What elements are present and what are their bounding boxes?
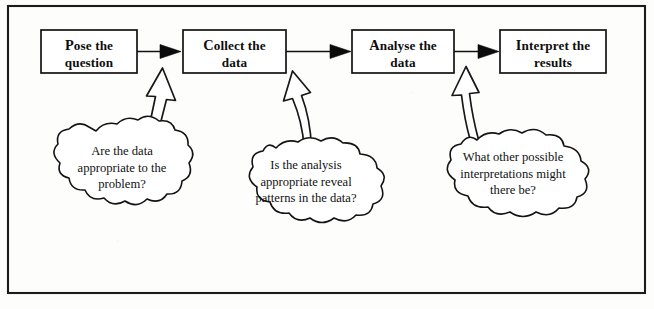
cloud3-line1: What other possible — [463, 150, 564, 164]
cloud1-line2: appropriate to the — [78, 161, 167, 175]
flow-connector-pose-to-collect — [137, 45, 181, 59]
block-arrow-cloud3-to-analyse — [452, 67, 479, 142]
process-box-pose[interactable]: Pose the question — [41, 30, 137, 73]
cloud1-line1: Are the data — [91, 144, 153, 158]
box-initial-pose: P — [65, 37, 74, 53]
cloud2-line3: patterns in the data? — [255, 191, 356, 205]
box-initial-collect: C — [203, 37, 214, 53]
cloud3-line3: there be? — [490, 183, 536, 197]
box-line1-collect: ollect the — [214, 38, 266, 53]
flow-connector-analyse-to-interpret — [454, 45, 499, 59]
box-line1-analyse: nalyse the — [380, 38, 437, 53]
box-line2-collect: data — [222, 55, 248, 70]
box-line2-analyse: data — [390, 55, 416, 70]
box-line2-pose: question — [65, 55, 114, 70]
cloud2-line2: appropriate reveal — [260, 175, 352, 189]
svg-text:Analyse the: Analyse the — [369, 37, 437, 53]
block-arrow-cloud2-to-collect — [284, 71, 312, 149]
svg-text:Pose the: Pose the — [65, 37, 113, 53]
thought-cloud-data-appropriate[interactable]: Are the data appropriate to the problem? — [54, 116, 193, 204]
svg-text:Collect the: Collect the — [203, 37, 265, 53]
box-line1-interpret: nterpret the — [522, 38, 591, 53]
process-box-collect[interactable]: Collect the data — [183, 30, 286, 73]
thought-cloud-other-interpretations[interactable]: What other possible interpretations migh… — [447, 129, 588, 216]
cloud1-line3: problem? — [98, 177, 146, 191]
diagram-canvas: Pose the question Collect the data Analy… — [0, 0, 654, 309]
process-box-interpret[interactable]: Interpret the results — [500, 30, 606, 73]
cloud3-line2: interpretations might — [460, 167, 566, 181]
svg-text:Interpret the: Interpret the — [516, 37, 590, 53]
cloud2-line1: Is the analysis — [270, 158, 341, 172]
flowchart-svg: Pose the question Collect the data Analy… — [0, 0, 654, 309]
box-line2-interpret: results — [534, 55, 572, 70]
process-box-analyse[interactable]: Analyse the data — [352, 30, 454, 73]
thought-cloud-analysis-appropriate[interactable]: Is the analysis appropriate reveal patte… — [249, 138, 384, 223]
box-initial-analyse: A — [369, 37, 380, 53]
box-line1-pose: ose the — [74, 38, 113, 53]
flow-connector-collect-to-analyse — [286, 45, 351, 59]
